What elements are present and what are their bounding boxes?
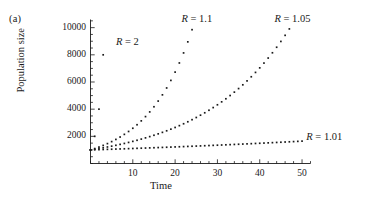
data-point bbox=[94, 135, 96, 137]
data-point bbox=[149, 147, 151, 149]
data-point bbox=[238, 88, 240, 90]
data-point bbox=[225, 144, 227, 146]
data-point bbox=[280, 41, 282, 43]
data-point bbox=[128, 148, 130, 150]
data-point bbox=[225, 98, 227, 100]
data-point bbox=[191, 119, 193, 121]
data-point bbox=[153, 147, 155, 149]
data-point bbox=[115, 139, 117, 141]
data-point bbox=[157, 133, 159, 135]
data-point bbox=[94, 149, 96, 151]
data-point bbox=[111, 145, 113, 147]
data-point bbox=[102, 54, 104, 56]
data-point bbox=[195, 117, 197, 119]
data-point bbox=[102, 147, 104, 149]
data-point bbox=[124, 134, 126, 136]
data-point bbox=[234, 144, 236, 146]
data-point bbox=[204, 145, 206, 147]
data-point bbox=[212, 107, 214, 109]
data-point bbox=[204, 112, 206, 114]
data-point bbox=[301, 140, 303, 142]
data-point bbox=[157, 147, 159, 149]
data-point bbox=[208, 145, 210, 147]
data-point bbox=[140, 138, 142, 140]
data-point bbox=[183, 52, 185, 54]
data-point bbox=[174, 146, 176, 148]
data-point bbox=[183, 146, 185, 148]
data-point bbox=[255, 143, 257, 145]
data-point bbox=[179, 125, 181, 127]
data-point bbox=[255, 72, 257, 74]
data-point bbox=[234, 91, 236, 93]
data-point bbox=[289, 141, 291, 143]
data-point bbox=[145, 116, 147, 118]
data-point bbox=[132, 148, 134, 150]
data-series bbox=[90, 29, 193, 151]
data-point bbox=[221, 144, 223, 146]
data-point bbox=[191, 29, 193, 31]
data-point bbox=[111, 141, 113, 143]
data-point bbox=[162, 132, 164, 134]
data-point bbox=[119, 148, 121, 150]
data-point bbox=[250, 76, 252, 78]
data-point bbox=[280, 141, 282, 143]
data-point bbox=[98, 149, 100, 151]
data-point bbox=[297, 141, 299, 143]
data-point bbox=[284, 141, 286, 143]
data-point bbox=[140, 120, 142, 122]
data-point bbox=[162, 147, 164, 149]
data-point bbox=[162, 94, 164, 96]
data-point bbox=[140, 147, 142, 149]
data-point bbox=[132, 127, 134, 129]
data-point bbox=[157, 100, 159, 102]
data-point bbox=[195, 145, 197, 147]
data-point bbox=[98, 146, 100, 148]
data-point bbox=[145, 147, 147, 149]
data-point bbox=[200, 114, 202, 116]
data-point bbox=[212, 145, 214, 147]
data-point bbox=[107, 146, 109, 148]
data-point bbox=[107, 143, 109, 145]
data-point bbox=[200, 145, 202, 147]
data-point bbox=[136, 124, 138, 126]
data-point bbox=[124, 148, 126, 150]
data-point bbox=[267, 57, 269, 59]
data-point bbox=[128, 142, 130, 144]
data-point bbox=[90, 149, 92, 151]
data-point bbox=[153, 106, 155, 108]
data-point bbox=[102, 149, 104, 151]
data-point bbox=[250, 143, 252, 145]
data-point bbox=[153, 134, 155, 136]
data-point bbox=[128, 131, 130, 133]
data-point bbox=[136, 147, 138, 149]
data-point bbox=[149, 111, 151, 113]
data-point bbox=[208, 109, 210, 111]
data-point bbox=[102, 145, 104, 147]
data-point bbox=[166, 130, 168, 132]
data-point bbox=[179, 62, 181, 64]
data-point bbox=[191, 145, 193, 147]
data-point bbox=[259, 142, 261, 144]
data-point bbox=[242, 143, 244, 145]
data-point bbox=[293, 141, 295, 143]
data-point bbox=[259, 67, 261, 69]
data-point bbox=[267, 142, 269, 144]
data-point bbox=[187, 146, 189, 148]
data-point bbox=[263, 142, 265, 144]
data-point bbox=[263, 62, 265, 64]
data-point bbox=[119, 144, 121, 146]
data-point bbox=[246, 80, 248, 82]
data-point bbox=[149, 136, 151, 138]
x-axis-ticks bbox=[91, 159, 311, 163]
data-point bbox=[183, 123, 185, 125]
data-point bbox=[132, 141, 134, 143]
data-point bbox=[174, 127, 176, 129]
data-point bbox=[272, 52, 274, 54]
data-point bbox=[187, 121, 189, 123]
data-series bbox=[90, 28, 291, 151]
data-point bbox=[187, 41, 189, 43]
data-point bbox=[124, 143, 126, 145]
data-point bbox=[111, 148, 113, 150]
data-point bbox=[179, 146, 181, 148]
data-point bbox=[221, 101, 223, 103]
